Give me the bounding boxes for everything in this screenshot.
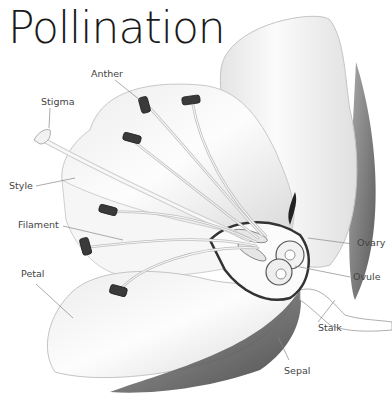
label-filament: Filament xyxy=(18,220,59,230)
label-ovary: Ovary xyxy=(357,238,385,248)
flower-illustration xyxy=(0,0,392,409)
stalk xyxy=(300,289,392,331)
label-stalk: Stalk xyxy=(318,323,342,333)
label-anther: Anther xyxy=(91,69,123,79)
label-style: Style xyxy=(9,181,33,191)
label-petal: Petal xyxy=(21,269,44,279)
label-ovule: Ovule xyxy=(353,272,381,282)
label-stigma: Stigma xyxy=(41,97,75,107)
label-sepal: Sepal xyxy=(284,366,310,376)
